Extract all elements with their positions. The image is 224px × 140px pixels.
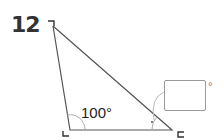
angle-dot — [151, 121, 153, 123]
leader-line — [153, 92, 164, 120]
angle-arc-bottom-right — [152, 116, 158, 130]
vertex-marker-top — [48, 21, 54, 26]
vertex-marker-bottom-left — [63, 131, 69, 136]
answer-input-box[interactable] — [164, 80, 206, 111]
degree-symbol: ° — [208, 80, 212, 92]
known-angle-label: 100° — [81, 104, 112, 121]
vertex-marker-bottom-right — [178, 132, 184, 137]
